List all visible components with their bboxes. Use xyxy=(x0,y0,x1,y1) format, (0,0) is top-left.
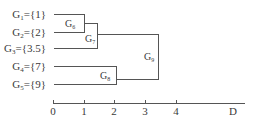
axis-tick-label-0: 0 xyxy=(50,105,56,117)
leaf-label-g1: G1={1} xyxy=(12,8,46,22)
merge-label-g6: G6 xyxy=(65,18,75,30)
dendrogram-diagram: G1={1} G2={2} G3={3.5} G4={7} G5={9} G6 … xyxy=(0,0,261,128)
distance-axis: 0 1 2 3 4 D xyxy=(50,100,245,117)
axis-tick-label-1: 1 xyxy=(81,105,87,117)
axis-label-d: D xyxy=(229,105,237,117)
merge-label-g9: G9 xyxy=(144,51,154,63)
axis-tick-label-2: 2 xyxy=(111,105,117,117)
axis-tick-label-4: 4 xyxy=(173,105,179,117)
leaf-labels: G1={1} G2={2} G3={3.5} G4={7} G5={9} xyxy=(4,8,46,92)
merge-label-g7: G7 xyxy=(85,33,95,45)
leaf-label-g4: G4={7} xyxy=(12,60,46,74)
leaf-label-g2: G2={2} xyxy=(12,26,46,40)
merge-label-g8: G8 xyxy=(100,70,110,82)
merge-labels: G6 G7 G8 G9 xyxy=(65,18,154,82)
leaf-label-g5: G5={9} xyxy=(12,78,46,92)
axis-tick-label-3: 3 xyxy=(142,105,148,117)
leaf-label-g3: G3={3.5} xyxy=(4,42,46,56)
